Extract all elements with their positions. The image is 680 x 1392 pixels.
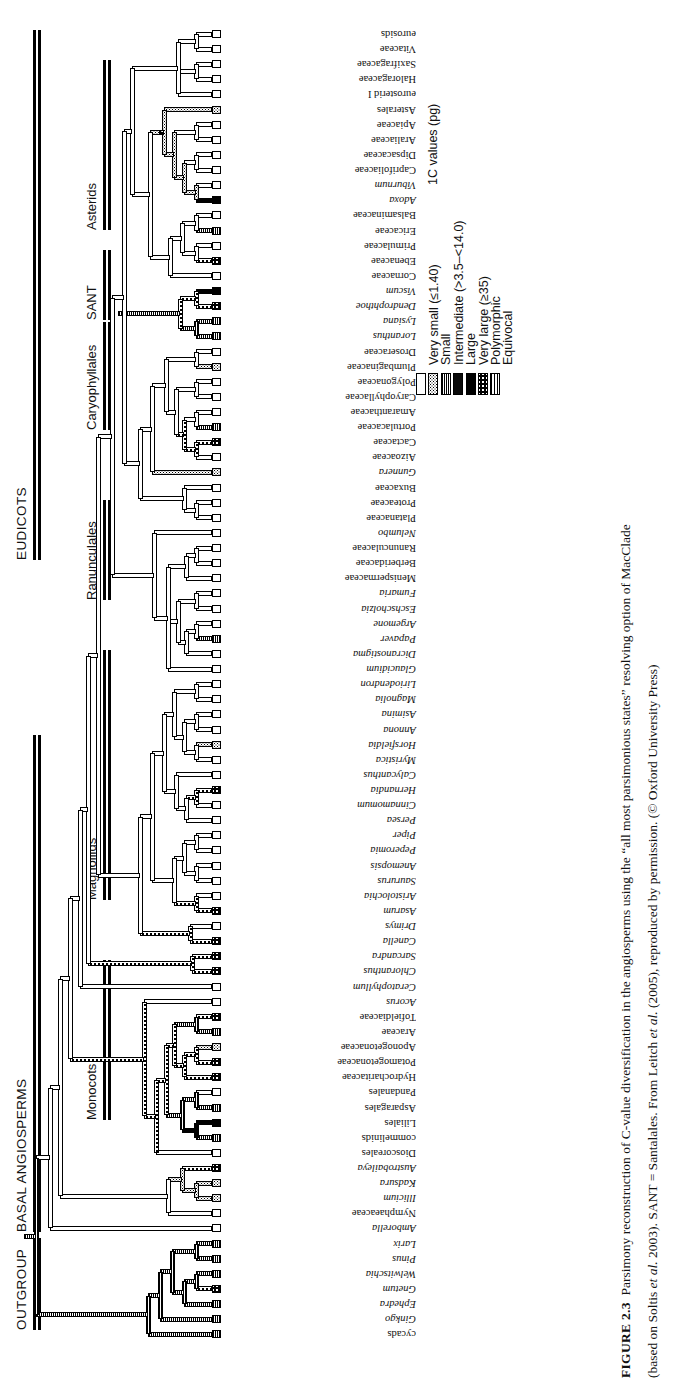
taxon-label: Asterales (208, 105, 416, 116)
taxon-state-swatch (212, 877, 221, 885)
taxon-label: Gunnera (208, 467, 416, 478)
branch-horizontal (88, 961, 192, 966)
clade-group-label: SANT (84, 285, 99, 320)
taxon-state-swatch (212, 771, 221, 779)
branch-horizontal (174, 130, 196, 135)
branch-horizontal (132, 66, 178, 71)
branch-horizontal (174, 901, 196, 906)
branch-horizontal (176, 772, 212, 777)
taxon-label: Potamogetonaceae (208, 1057, 416, 1068)
taxon-label: Viburnum (208, 180, 416, 191)
taxon-label: Berberidaceae (208, 558, 416, 569)
taxon-state-swatch (212, 665, 221, 673)
taxon-state-swatch (212, 468, 221, 476)
taxon-label: Ebenaceae (208, 256, 416, 267)
taxon-state-swatch (212, 801, 221, 809)
taxon-state-swatch (212, 726, 221, 734)
taxon-label: Hernandia (208, 785, 416, 796)
caption-text-1: Parsimony reconstruction of C-value dive… (618, 524, 633, 1295)
taxon-label: Liriodendron (208, 679, 416, 690)
branch-horizontal (172, 1249, 196, 1254)
taxon-state-swatch (212, 287, 221, 295)
taxon-state-swatch (212, 1255, 221, 1263)
taxon-state-swatch (212, 559, 221, 567)
taxon-label: Piper (208, 830, 416, 841)
branch-horizontal (112, 573, 154, 578)
taxon-state-swatch (212, 1315, 221, 1323)
taxon-label: Kadsura (208, 1178, 416, 1189)
branch-horizontal (148, 1332, 212, 1337)
branch-horizontal (80, 984, 212, 989)
branch-horizontal (164, 107, 212, 112)
branch-horizontal (144, 999, 212, 1004)
taxon-state-swatch (212, 1134, 221, 1142)
taxon-label: Calycanthus (208, 770, 416, 781)
taxon-state-swatch (212, 892, 221, 900)
branch-horizontal (50, 1226, 212, 1231)
taxon-state-swatch (212, 529, 221, 537)
taxon-label: Canella (208, 936, 416, 947)
major-group-bar (38, 30, 41, 560)
taxon-label: Viscum (208, 286, 416, 297)
branch-horizontal (168, 667, 212, 672)
taxon-state-swatch (212, 983, 221, 991)
taxon-label: Araliaceae (208, 135, 416, 146)
branch-horizontal (152, 470, 212, 475)
legend-swatch (416, 373, 426, 395)
taxon-label: Horsfieldia (208, 740, 416, 751)
taxon-label: Papaver (208, 634, 416, 645)
taxon-label: Asarum (208, 906, 416, 917)
taxon-label: Amborella (208, 1223, 416, 1234)
taxon-state-swatch (212, 1179, 221, 1187)
taxon-state-swatch (212, 453, 221, 461)
taxon-state-swatch (212, 1104, 221, 1112)
taxon-label: eurosids (208, 29, 416, 40)
clade-group-bar (103, 60, 106, 230)
taxon-state-swatch (212, 317, 221, 325)
taxon-label: Nymphaeaceae (208, 1208, 416, 1219)
taxon-state-swatch (212, 816, 221, 824)
legend-swatch (453, 373, 463, 395)
taxon-state-swatch (212, 363, 221, 371)
taxon-state-swatch (212, 348, 221, 356)
taxon-label: Portulacaceae (208, 422, 416, 433)
taxon-state-swatch (212, 90, 221, 98)
taxon-label: Ephedra (208, 1299, 416, 1310)
taxon-state-swatch (212, 1285, 221, 1293)
major-group-label: EUDICOTS (14, 487, 29, 560)
branch-horizontal (132, 192, 150, 197)
taxon-label: Annona (208, 725, 416, 736)
major-group-bar (33, 30, 36, 560)
taxon-state-swatch (212, 1270, 221, 1278)
taxon-state-swatch (212, 620, 221, 628)
taxon-state-swatch (212, 257, 221, 265)
taxon-label: Polygonaceae (208, 377, 416, 388)
taxon-state-swatch (212, 574, 221, 582)
taxon-label: Asparagales (208, 1103, 416, 1114)
taxon-label: Caryophyllaceae (208, 392, 416, 403)
legend-swatch (466, 373, 476, 395)
figure-caption: FIGURE 2.3 Parsimony reconstruction of C… (612, 18, 666, 1378)
taxon-state-swatch (212, 1149, 221, 1157)
major-group-label: OUTGROUP (14, 1249, 29, 1330)
taxon-label: Menispermaceae (208, 573, 416, 584)
clade-group-bar (103, 500, 106, 600)
taxon-state-swatch (212, 438, 221, 446)
clade-group-bar (108, 650, 111, 900)
branch-horizontal (152, 878, 174, 883)
taxon-state-swatch (212, 998, 221, 1006)
taxon-label: Glaucidium (208, 664, 416, 675)
taxon-state-swatch (212, 332, 221, 340)
taxon-state-swatch (212, 1209, 221, 1217)
taxon-label: Ranunculaceae (208, 543, 416, 554)
branch-horizontal (98, 873, 140, 878)
taxon-state-swatch (212, 181, 221, 189)
caption-text-2c: (2005), reproduced by permission. (© Oxf… (645, 664, 660, 1011)
taxon-label: Saururus (208, 876, 416, 887)
taxon-state-swatch (212, 1119, 221, 1127)
taxon-label: Proteaceae (208, 498, 416, 509)
taxon-state-swatch (212, 302, 221, 310)
branch-horizontal (36, 1312, 148, 1317)
taxon-state-swatch (212, 544, 221, 552)
taxon-state-swatch (212, 423, 221, 431)
